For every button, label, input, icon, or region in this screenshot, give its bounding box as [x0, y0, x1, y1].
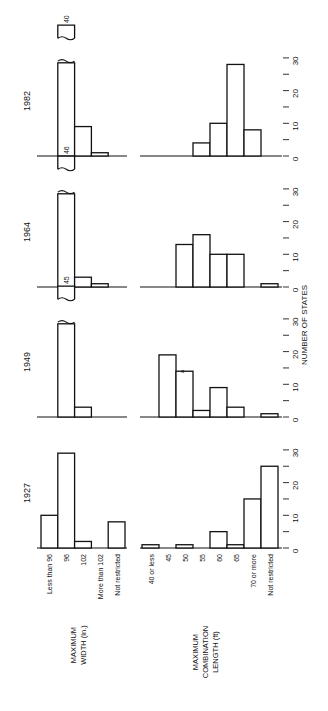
width-axis-title: MAXIMUM: [69, 627, 78, 663]
value-axis-title: NUMBER OF STATES: [300, 285, 309, 365]
width-bar-102: [75, 127, 92, 156]
length-bar-70 or more: [244, 499, 261, 548]
length-bar-55: [193, 410, 210, 417]
break-cap: [58, 286, 75, 299]
width-bar-96: [58, 324, 75, 417]
length-bar-50: [176, 371, 193, 417]
length-bar-70 or more: [244, 130, 261, 156]
length-bar-60: [210, 123, 227, 156]
tick-label: 20: [291, 481, 300, 490]
panel-1927: 19270102030: [22, 448, 300, 553]
year-label-1927: 1927: [22, 483, 32, 503]
length-bar-55: [193, 143, 210, 156]
tick-label: 30: [291, 317, 300, 326]
panel-1982: 1982010203040: [22, 15, 300, 161]
tick-label: 10: [291, 121, 300, 130]
width-category-label: 96: [63, 554, 70, 562]
width-axis-title: WIDTH (in.): [79, 625, 88, 665]
length-bar-40 or less: [142, 545, 159, 548]
length-bar-60: [210, 388, 227, 417]
width-category-label: Not restricted: [114, 554, 121, 596]
length-bar-55: [193, 235, 210, 287]
width-category-label: Less than 96: [46, 554, 53, 594]
width-bar-102: [75, 277, 92, 287]
width-bar-More than 102: [91, 284, 108, 287]
width-bar-102: [75, 541, 92, 548]
footnote-marker: a: [180, 369, 186, 373]
length-category-label: 55: [199, 554, 206, 562]
length-category-label: Not restricted: [267, 554, 274, 596]
width-bar-102: [75, 407, 92, 417]
break-value-label: 46: [63, 146, 70, 154]
tick-label: 20: [291, 89, 300, 98]
width-bar-96: [58, 63, 75, 156]
length-axis-title: LENGTH (ft): [211, 631, 220, 673]
length-axis-title: MAXIMUM: [191, 634, 200, 670]
length-bar-45: [159, 355, 176, 417]
chart: 198201020304019640102030461949010203045a…: [0, 0, 328, 711]
tick-label: 0: [291, 156, 300, 161]
length-category-label: 60: [216, 554, 223, 562]
length-bar-65: [227, 407, 244, 417]
tick-label: 10: [291, 382, 300, 391]
width-bar-Not restricted: [108, 522, 125, 548]
length-category-label: 70 or more: [250, 554, 257, 588]
break-value-label: 45: [63, 276, 70, 284]
tick-label: 30: [291, 187, 300, 196]
break-value-label: 40: [63, 15, 70, 23]
chart-panels: 198201020304019640102030461949010203045a…: [22, 15, 300, 553]
year-label-1964: 1964: [22, 222, 32, 242]
width-bar-96: [58, 453, 75, 548]
tick-label: 10: [291, 513, 300, 522]
length-bar-Not restricted: [261, 466, 278, 548]
length-category-label: 45: [165, 554, 172, 562]
panel-1949: 1949010203045a: [22, 276, 300, 422]
tick-label: 30: [291, 56, 300, 65]
break-cap: [58, 25, 75, 38]
length-bar-Not restricted: [261, 284, 278, 287]
tick-label: 0: [291, 417, 300, 422]
length-category-label: 50: [182, 554, 189, 562]
length-bar-Not restricted: [261, 414, 278, 417]
length-category-label: 40 or less: [148, 554, 155, 585]
length-bar-65: [227, 545, 244, 548]
length-bar-50: [176, 244, 193, 287]
length-category-label: 65: [233, 554, 240, 562]
tick-label: 0: [291, 287, 300, 292]
length-bar-50: [176, 545, 193, 548]
length-axis-title: COMBINATION: [201, 626, 210, 678]
year-label-1949: 1949: [22, 352, 32, 372]
length-bar-60: [210, 532, 227, 548]
tick-label: 0: [291, 548, 300, 553]
tick-label: 20: [291, 350, 300, 359]
tick-label: 30: [291, 448, 300, 457]
width-bar-More than 102: [91, 153, 108, 156]
panel-1964: 1964010203046: [22, 146, 300, 292]
tick-label: 20: [291, 220, 300, 229]
width-category-label: More than 102: [97, 554, 104, 599]
length-bar-65: [227, 254, 244, 287]
width-category-label: 102: [80, 554, 87, 566]
year-label-1982: 1982: [22, 91, 32, 111]
width-bar-96: [58, 194, 75, 287]
width-bar-Less than 96: [41, 515, 58, 548]
break-cap: [58, 156, 75, 169]
length-bar-65: [227, 64, 244, 156]
length-bar-60: [210, 254, 227, 287]
tick-label: 10: [291, 252, 300, 261]
